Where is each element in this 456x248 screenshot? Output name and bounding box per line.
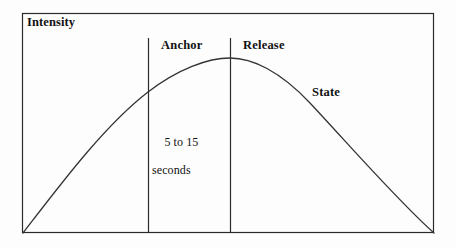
plot-frame xyxy=(23,14,434,233)
release-label: Release xyxy=(243,38,285,53)
state-label: State xyxy=(312,85,340,100)
anchor-label: Anchor xyxy=(161,38,202,53)
intensity-curve xyxy=(23,58,434,233)
duration-annotation: 5 to 15 seconds xyxy=(152,121,198,206)
axis-label-intensity: Intensity xyxy=(27,15,75,30)
duration-line-1: 5 to 15 xyxy=(164,135,198,149)
figure-canvas xyxy=(0,0,456,248)
intensity-curve-figure: Intensity Anchor Release State 5 to 15 s… xyxy=(0,0,456,248)
duration-line-2: seconds xyxy=(152,163,198,177)
